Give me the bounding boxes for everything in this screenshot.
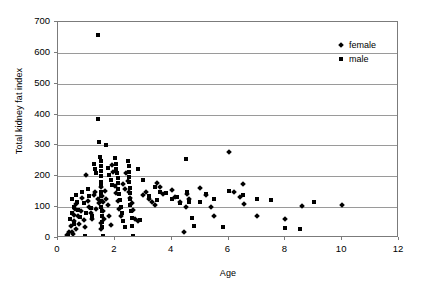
data-point-male	[158, 190, 162, 194]
data-point-male	[312, 200, 316, 204]
data-point-male	[70, 211, 74, 215]
kidney-fat-scatter-chart: Total kidney fat index Age 0100200300400…	[0, 0, 422, 289]
data-point-male	[255, 197, 259, 201]
data-point-female	[231, 189, 237, 195]
legend-label-male: male	[349, 52, 369, 66]
x-tick-mark	[228, 237, 229, 240]
data-point-male	[184, 157, 188, 161]
data-point-male	[104, 143, 108, 147]
data-point-male	[241, 193, 245, 197]
data-point-male	[121, 219, 125, 223]
data-point-male	[129, 209, 133, 213]
gridline	[58, 207, 397, 208]
data-point-female	[92, 189, 98, 195]
data-point-male	[269, 198, 273, 202]
gridline	[58, 115, 397, 116]
data-point-male	[128, 186, 132, 190]
x-tick-mark	[171, 237, 172, 240]
square-marker-icon	[336, 57, 346, 61]
x-tick-label: 0	[45, 243, 69, 254]
data-point-male	[128, 191, 132, 195]
x-tick-label: 6	[216, 243, 240, 254]
data-point-male	[80, 190, 84, 194]
data-point-male	[107, 173, 111, 177]
data-point-male	[227, 189, 231, 193]
data-point-female	[183, 204, 189, 210]
data-point-male	[99, 194, 103, 198]
x-tick-label: 8	[272, 243, 296, 254]
x-tick-mark	[284, 237, 285, 240]
data-point-male	[86, 187, 90, 191]
data-point-female	[254, 213, 260, 219]
data-point-male	[131, 234, 135, 237]
data-point-male	[100, 225, 104, 229]
data-point-male	[70, 197, 74, 201]
data-point-male	[221, 225, 225, 229]
data-point-male	[127, 164, 131, 168]
data-point-male	[141, 178, 145, 182]
data-point-male	[114, 167, 118, 171]
data-point-male	[99, 184, 103, 188]
data-point-male	[100, 220, 104, 224]
diamond-marker-icon	[336, 43, 346, 47]
data-point-female	[70, 231, 76, 237]
data-point-male	[99, 174, 103, 178]
data-point-male	[212, 197, 216, 201]
legend-label-female: female	[349, 38, 376, 52]
data-point-male	[175, 195, 179, 199]
data-point-male	[72, 205, 76, 209]
data-point-male	[74, 193, 78, 197]
data-point-male	[89, 206, 93, 210]
data-point-male	[100, 214, 104, 218]
data-point-male	[118, 198, 122, 202]
data-point-male	[123, 225, 127, 229]
data-point-male	[99, 190, 103, 194]
data-point-female	[82, 224, 88, 230]
x-tick-label: 4	[159, 243, 183, 254]
data-point-female	[240, 181, 246, 187]
data-point-male	[97, 140, 101, 144]
data-point-male	[84, 211, 88, 215]
data-point-male	[192, 224, 196, 228]
legend-item-male: male	[336, 52, 376, 66]
data-point-male	[155, 198, 159, 202]
data-point-female	[226, 149, 232, 155]
data-point-male	[126, 159, 130, 163]
data-point-male	[147, 194, 151, 198]
data-point-male	[114, 162, 118, 166]
data-point-male	[298, 227, 302, 231]
data-point-female	[182, 230, 188, 236]
data-point-male	[68, 217, 72, 221]
data-point-male	[93, 167, 97, 171]
data-point-male	[106, 166, 110, 170]
x-tick-label: 10	[329, 243, 353, 254]
data-point-female	[209, 204, 215, 210]
y-tick-label: 0	[20, 231, 50, 242]
data-point-male	[116, 187, 120, 191]
data-point-male	[110, 183, 114, 187]
data-point-male	[87, 194, 91, 198]
data-point-male	[138, 218, 142, 222]
data-point-male	[136, 167, 140, 171]
data-point-male	[185, 190, 189, 194]
data-point-male	[187, 200, 191, 204]
data-point-female	[79, 195, 85, 201]
x-axis-title: Age	[58, 268, 398, 278]
data-point-male	[128, 203, 132, 207]
data-point-male	[153, 185, 157, 189]
data-point-male	[75, 200, 79, 204]
data-point-male	[178, 201, 182, 205]
chart-legend: female male	[336, 38, 376, 66]
data-point-male	[78, 215, 82, 219]
data-point-male	[130, 224, 134, 228]
data-point-female	[85, 198, 91, 204]
y-tick-label: 300	[20, 138, 50, 149]
x-tick-mark	[398, 237, 399, 240]
data-point-male	[100, 209, 104, 213]
data-point-male	[117, 192, 121, 196]
data-point-female	[169, 187, 175, 193]
data-point-male	[190, 216, 194, 220]
y-tick-label: 400	[20, 108, 50, 119]
data-point-female	[197, 185, 203, 191]
gridline	[58, 145, 397, 146]
